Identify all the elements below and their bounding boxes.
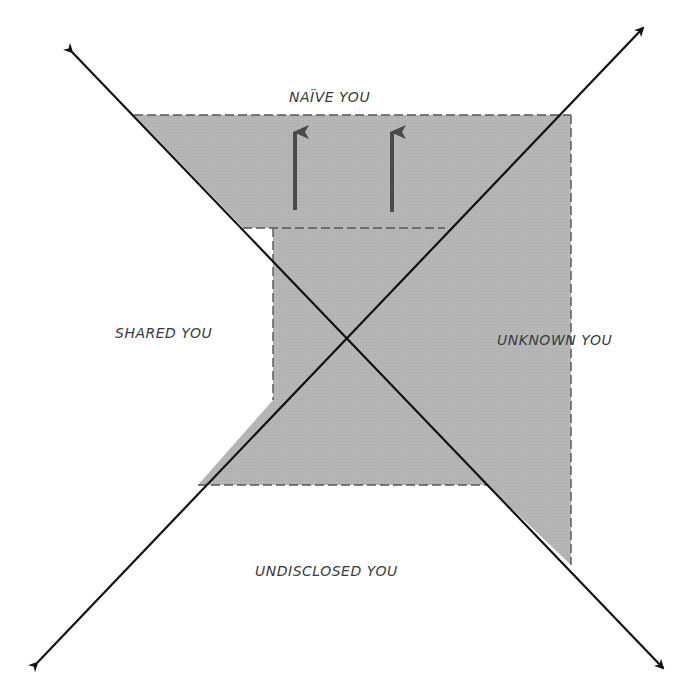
undisclosed-you-label: UNDISCLOSED YOU bbox=[255, 563, 398, 579]
unknown-you-label: UNKNOWN YOU bbox=[497, 332, 612, 348]
shared-you-label: SHARED YOU bbox=[115, 325, 212, 341]
naive-you-label: NAÏVE YOU bbox=[289, 89, 370, 105]
